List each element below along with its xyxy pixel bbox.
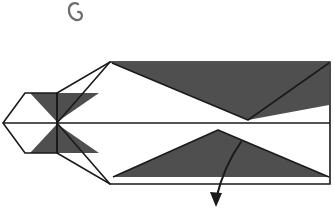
fold-diagram xyxy=(0,0,334,214)
diagram-canvas xyxy=(0,0,334,214)
fold-direction-arrowhead xyxy=(210,192,222,207)
hook-icon xyxy=(69,3,82,20)
